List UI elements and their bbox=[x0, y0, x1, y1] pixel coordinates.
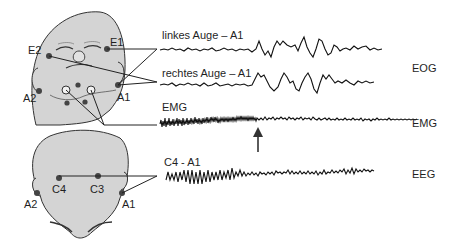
trace-emg bbox=[160, 116, 417, 127]
trace-label-left-eye: linkes Auge – A1 bbox=[162, 29, 243, 41]
trace-label-emg: EMG bbox=[162, 101, 187, 113]
electrode-label-a1-back: A1 bbox=[122, 198, 135, 210]
channel-label-emg: EMG bbox=[412, 117, 437, 129]
electrode-label-a1-face: A1 bbox=[117, 91, 130, 103]
channel-label-eeg: EEG bbox=[412, 168, 435, 180]
electrode-label-c3: C3 bbox=[90, 183, 104, 195]
face-front-illustration bbox=[32, 12, 125, 125]
electrode-label-a2-back: A2 bbox=[24, 198, 37, 210]
electrode-label-a2-face: A2 bbox=[23, 92, 36, 104]
trace-label-eeg: C4 - A1 bbox=[164, 156, 201, 168]
head-back-illustration bbox=[33, 130, 129, 238]
channel-label-eog: EOG bbox=[412, 62, 436, 74]
electrode-label-e1: E1 bbox=[110, 36, 123, 48]
polysomnography-diagram: E1 E2 A1 A2 C4 C3 A1 A2 linkes Auge – A1… bbox=[0, 0, 458, 249]
electrode-label-c4: C4 bbox=[52, 183, 66, 195]
up-arrow-icon bbox=[253, 127, 263, 152]
trace-label-right-eye: rechtes Auge – A1 bbox=[162, 67, 251, 79]
trace-eeg bbox=[166, 168, 374, 184]
electrode-label-e2: E2 bbox=[28, 44, 41, 56]
